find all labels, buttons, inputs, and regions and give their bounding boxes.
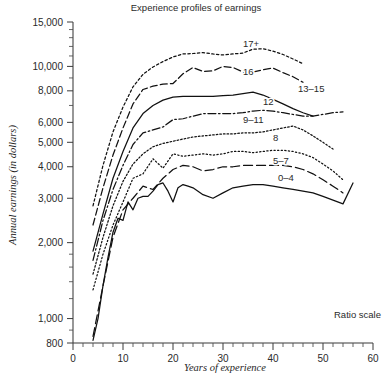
series-label-5-7: 5–7 xyxy=(273,155,289,166)
x-tick-label: 20 xyxy=(167,353,179,364)
y-tick-label: 2,000 xyxy=(38,237,63,248)
earnings-experience-chart: Experience profiles of earnings 15,00010… xyxy=(0,0,389,387)
x-axis: 0102030405060 xyxy=(70,343,379,364)
x-tick-label: 10 xyxy=(117,353,129,364)
series-label-8: 8 xyxy=(273,132,278,143)
y-tick-label: 800 xyxy=(46,338,63,349)
y-axis-title: Annual earnings (in dollars) xyxy=(7,125,19,246)
series-line-9-11 xyxy=(93,126,333,274)
chart-title-group: Experience profiles of earnings xyxy=(131,2,262,13)
x-tick-label: 60 xyxy=(367,353,379,364)
series-label-16: 16 xyxy=(243,66,254,77)
series-label-9-11: 9–11 xyxy=(243,114,263,125)
series-label-13-15: 13–15 xyxy=(298,83,324,94)
y-tick-label: 3,000 xyxy=(38,193,63,204)
y-tick-label: 6,000 xyxy=(38,117,63,128)
y-tick-label: 8,000 xyxy=(38,85,63,96)
chart-title: Experience profiles of earnings xyxy=(131,2,262,13)
series-line-17- xyxy=(93,49,303,206)
series-label-17-: 17+ xyxy=(243,38,260,49)
y-tick-label: 10,000 xyxy=(32,61,63,72)
series-label-0-4: 0–4 xyxy=(278,172,294,183)
x-axis-title: Years of experience xyxy=(184,362,266,373)
series-line-16 xyxy=(93,66,303,225)
series-line-8 xyxy=(93,150,343,290)
axis-titles: Years of experience Annual earnings (in … xyxy=(7,125,381,373)
series-label-12: 12 xyxy=(263,96,274,107)
chart-svg: Experience profiles of earnings 15,00010… xyxy=(0,0,389,387)
y-tick-label: 4,000 xyxy=(38,161,63,172)
y-axis: 15,00010,0008,0006,0005,0004,0003,0002,0… xyxy=(32,17,73,349)
y-tick-label: 15,000 xyxy=(32,17,63,28)
x-tick-label: 50 xyxy=(317,353,329,364)
y-tick-label: 1,000 xyxy=(38,313,63,324)
x-tick-label: 40 xyxy=(267,353,279,364)
x-tick-label: 0 xyxy=(70,353,76,364)
y-tick-label: 5,000 xyxy=(38,137,63,148)
ratio-scale-note: Ratio scale xyxy=(334,309,381,320)
series-line-0-4 xyxy=(93,183,353,340)
